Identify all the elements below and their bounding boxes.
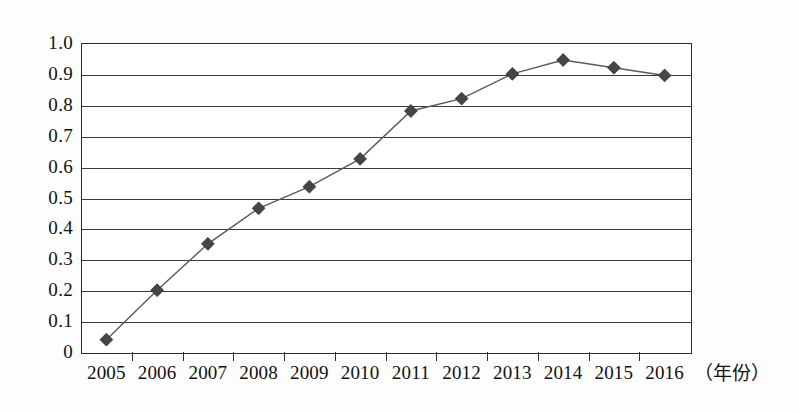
x-axis-tick-mark bbox=[132, 352, 133, 361]
gridline-y-0.9 bbox=[82, 75, 691, 76]
y-axis-tick-label: 0 bbox=[13, 342, 73, 361]
gridline-y-0.3 bbox=[82, 260, 691, 261]
x-axis-tick-mark bbox=[386, 352, 387, 361]
x-axis-tick-mark bbox=[233, 352, 234, 361]
gridline-y-0.6 bbox=[82, 168, 691, 169]
y-axis-tick-label: 0.5 bbox=[13, 188, 73, 207]
y-axis-tick-label: 0.3 bbox=[13, 249, 73, 268]
gridline-y-0.5 bbox=[82, 199, 691, 200]
x-axis-tick-mark bbox=[639, 352, 640, 361]
x-axis-tick-mark bbox=[538, 352, 539, 361]
y-axis-tick-label: 0.9 bbox=[13, 64, 73, 83]
gridline-y-0.1 bbox=[82, 322, 691, 323]
gridline-y-0.4 bbox=[82, 229, 691, 230]
y-axis-tick-label: 0.4 bbox=[13, 218, 73, 237]
gridline-y-0.2 bbox=[82, 291, 691, 292]
gridline-y-0.8 bbox=[82, 106, 691, 107]
y-axis-tick-label: 0.8 bbox=[13, 95, 73, 114]
x-axis-tick-mark bbox=[436, 352, 437, 361]
gridline-y-0.7 bbox=[82, 137, 691, 138]
y-axis-tick-label: 0.1 bbox=[13, 311, 73, 330]
plot-area bbox=[81, 43, 692, 354]
x-axis-tick-mark bbox=[183, 352, 184, 361]
y-axis-tick-label: 0.7 bbox=[13, 126, 73, 145]
x-axis-tick-mark bbox=[487, 352, 488, 361]
x-axis-tick-mark bbox=[284, 352, 285, 361]
y-axis-tick-label: 1.0 bbox=[13, 33, 73, 52]
x-axis-tick-mark bbox=[335, 352, 336, 361]
y-axis-tick-label: 0.6 bbox=[13, 157, 73, 176]
y-axis-tick-label: 0.2 bbox=[13, 280, 73, 299]
x-axis-tick-label-2016: 2016 bbox=[633, 362, 697, 384]
x-axis-title: （年份） bbox=[694, 362, 770, 384]
x-axis-tick-mark bbox=[589, 352, 590, 361]
chart-figure: 1.00.90.80.70.60.50.40.30.20.10200520062… bbox=[0, 0, 799, 413]
